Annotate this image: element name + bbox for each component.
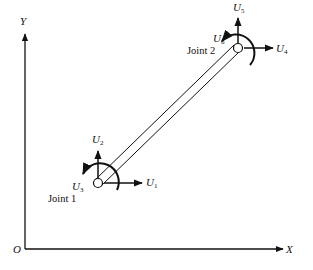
origin-label: O bbox=[13, 243, 21, 255]
u3-label: U3 bbox=[72, 180, 84, 194]
joint-1-node bbox=[94, 179, 103, 188]
u1-label: U1 bbox=[146, 176, 158, 190]
y-axis-label: Y bbox=[20, 15, 28, 27]
u4-label: U4 bbox=[276, 42, 288, 56]
joint-2-node bbox=[234, 44, 243, 53]
u6-label: U6 bbox=[213, 32, 225, 46]
joint-2: U4 U5 U6 Joint 2 bbox=[187, 1, 288, 65]
u2-label: U2 bbox=[92, 133, 104, 147]
beam-member bbox=[95, 45, 240, 186]
u5-label: U5 bbox=[233, 1, 245, 15]
joint-1: U1 U2 U3 Joint 1 bbox=[48, 133, 158, 204]
beam-dof-diagram: Y X O U1 U2 U3 Joint 1 U4 U5 bbox=[0, 0, 313, 270]
joint-2-label: Joint 2 bbox=[187, 45, 215, 56]
joint-1-label: Joint 1 bbox=[48, 193, 76, 204]
x-axis-label: X bbox=[285, 243, 294, 255]
